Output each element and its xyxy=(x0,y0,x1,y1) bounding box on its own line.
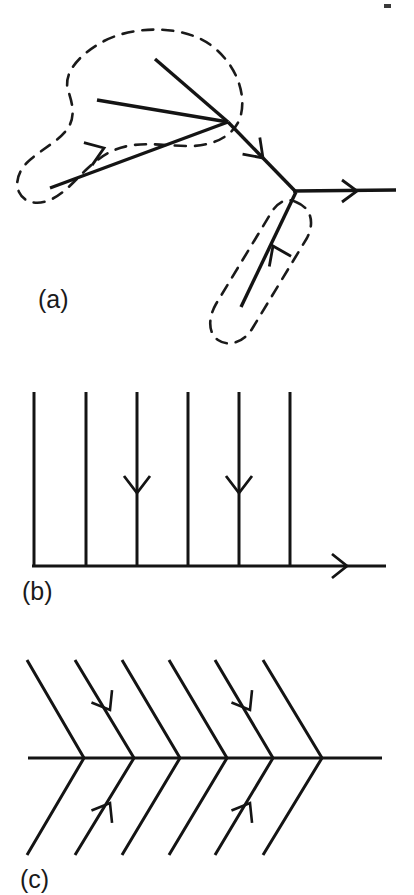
panel-b-verticals xyxy=(34,392,290,567)
segment-lower-branch xyxy=(241,192,296,307)
panel-b: (b) xyxy=(22,392,386,605)
panel-a: (a) xyxy=(17,30,396,344)
panel-label-c: (c) xyxy=(20,865,49,893)
segment-upper-left-long-branch xyxy=(50,122,228,188)
figure-canvas: (a) xyxy=(0,0,414,895)
figure-root: (a) xyxy=(0,0,414,895)
scan-speck xyxy=(384,4,391,8)
arrow-upper-left-branch xyxy=(84,137,108,165)
panel-c: (c) xyxy=(20,660,382,893)
segment-horizontal-outflow xyxy=(293,190,396,191)
panel-b-arrowheads xyxy=(124,476,347,578)
panel-label-b: (b) xyxy=(22,577,53,605)
panel-label-a: (a) xyxy=(38,285,69,313)
panel-a-arrowheads xyxy=(84,137,357,267)
dashed-region-upper-blob xyxy=(17,30,242,203)
dashed-region-lower-capsule xyxy=(210,200,311,343)
